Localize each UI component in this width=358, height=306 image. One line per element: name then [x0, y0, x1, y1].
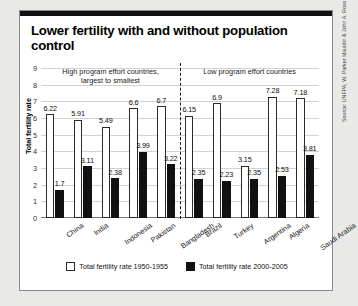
y-axis-tick: 4	[33, 147, 37, 156]
y-axis-tick: 8	[33, 80, 37, 89]
bar-group: 5.913.11	[69, 68, 97, 218]
bar-2000[interactable]	[250, 179, 258, 218]
bar-value-label: 6.7	[157, 96, 167, 105]
bar-2000[interactable]	[222, 181, 230, 218]
bar-1950[interactable]	[185, 116, 193, 219]
bar-group: 6.152.35	[180, 68, 208, 218]
bar-value-label: 2.23	[220, 170, 234, 179]
bar-1950[interactable]	[213, 103, 221, 218]
legend-swatch-open-icon	[66, 262, 75, 271]
bar-value-label: 6.6	[129, 98, 139, 107]
bar-value-label: 5.91	[71, 109, 85, 118]
legend-item-2000: Total fertility rate 2000-2005	[186, 262, 288, 271]
chart-title: Lower fertility with and without populat…	[31, 23, 307, 54]
bar-value-label: 6.9	[212, 93, 222, 102]
plot-area: 01234567896.221.7China5.913.11India5.492…	[41, 68, 319, 218]
y-axis-tick: 6	[33, 114, 37, 123]
bar-group: 6.92.23	[208, 68, 236, 218]
bar-value-label: 1.7	[55, 179, 65, 188]
source-note: Source: UNFPA; W. Parker Mauldin & John …	[341, 1, 347, 122]
y-axis-tick: 2	[33, 180, 37, 189]
bar-value-label: 2.35	[192, 168, 206, 177]
bar-value-label: 3.99	[136, 141, 150, 150]
bar-2000[interactable]	[83, 166, 91, 218]
bar-group: 7.282.53	[263, 68, 291, 218]
bar-1950[interactable]	[296, 98, 304, 218]
y-axis-tick: 7	[33, 97, 37, 106]
bar-value-label: 3.11	[81, 156, 94, 165]
bar-value-label: 6.15	[182, 105, 196, 114]
bar-value-label: 2.53	[275, 165, 289, 174]
chart-legend: Total fertility rate 1950-1955 Total fer…	[0, 262, 354, 271]
bar-value-label: 7.28	[266, 86, 280, 95]
y-axis-tick: 9	[33, 64, 37, 73]
bar-group: 7.183.81	[291, 68, 319, 218]
section-label-low-effort: Low program effort countries	[180, 68, 319, 77]
legend-label-1950: Total fertility rate 1950-1955	[79, 262, 168, 271]
group-divider	[180, 63, 181, 219]
bar-value-label: 3.81	[303, 144, 317, 153]
bar-group: 3.152.35	[236, 68, 264, 218]
bar-2000[interactable]	[306, 155, 314, 219]
legend-label-2000: Total fertility rate 2000-2005	[199, 262, 288, 271]
section-label-high-effort: High program effort countries, largest t…	[41, 68, 180, 86]
bar-group: 6.221.7	[41, 68, 69, 218]
bar-group: 6.63.99	[124, 68, 152, 218]
bar-1950[interactable]	[74, 120, 82, 219]
bar-1950[interactable]	[268, 97, 276, 218]
y-axis-title: Total fertility rate	[24, 98, 33, 154]
bar-2000[interactable]	[111, 178, 119, 218]
bar-2000[interactable]	[55, 190, 63, 218]
bar-value-label: 2.38	[108, 168, 122, 177]
y-axis-tick: 3	[33, 164, 37, 173]
y-axis-tick: 0	[33, 214, 37, 223]
legend-item-1950: Total fertility rate 1950-1955	[66, 262, 168, 271]
bar-2000[interactable]	[194, 179, 202, 218]
bar-2000[interactable]	[139, 152, 147, 219]
bar-value-label: 5.49	[99, 116, 113, 125]
bar-value-label: 6.22	[43, 104, 57, 113]
bar-value-label: 7.18	[294, 88, 308, 97]
bar-2000[interactable]	[167, 164, 175, 218]
bar-value-label: 3.22	[164, 154, 178, 163]
header-rule	[20, 11, 332, 16]
bar-1950[interactable]	[46, 114, 54, 218]
bar-group: 6.73.22	[152, 68, 180, 218]
bar-value-label: 2.35	[247, 168, 261, 177]
bar-group: 5.492.38	[97, 68, 125, 218]
y-axis-tick: 5	[33, 130, 37, 139]
bar-value-label: 3.15	[238, 155, 252, 164]
legend-swatch-solid-icon	[186, 262, 195, 271]
y-axis-tick: 1	[33, 197, 37, 206]
bar-1950[interactable]	[129, 108, 137, 218]
bar-2000[interactable]	[278, 176, 286, 218]
